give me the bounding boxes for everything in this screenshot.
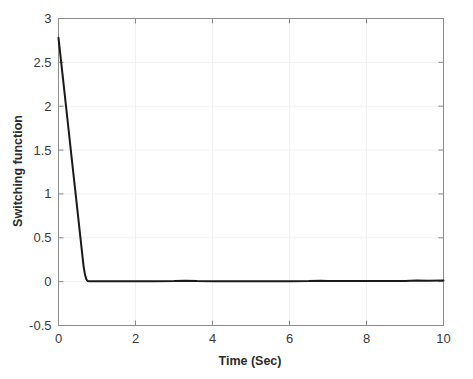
x-tick-label: 2 xyxy=(132,331,139,346)
x-tick-label: 8 xyxy=(363,331,370,346)
y-tick-label: 0.5 xyxy=(33,230,51,245)
figure-container: 0246810-0.500.511.522.53 Time (Sec) Swit… xyxy=(0,0,473,379)
axes-box xyxy=(59,19,444,326)
y-tick-label: 1.5 xyxy=(33,143,51,158)
y-tick-label: 2.5 xyxy=(33,55,51,70)
y-tick-label: 2 xyxy=(44,99,51,114)
chart-canvas: 0246810-0.500.511.522.53 Time (Sec) Swit… xyxy=(0,0,473,379)
y-tick-label: -0.5 xyxy=(29,318,51,333)
x-tick-label: 10 xyxy=(436,331,450,346)
x-tick-label: 4 xyxy=(209,331,216,346)
x-axis-title: Time (Sec) xyxy=(219,354,282,368)
grid-lines xyxy=(59,19,444,326)
y-tick-label: 3 xyxy=(44,11,51,26)
tick-labels: 0246810-0.500.511.522.53 xyxy=(29,11,451,346)
y-tick-label: 0 xyxy=(44,274,51,289)
data-series xyxy=(59,38,444,281)
series-line-switching-function xyxy=(59,38,444,281)
x-tick-label: 6 xyxy=(286,331,293,346)
y-tick-label: 1 xyxy=(44,186,51,201)
x-tick-label: 0 xyxy=(55,331,62,346)
axis-ticks xyxy=(59,19,444,326)
y-axis-title: Switching function xyxy=(11,115,25,227)
plot-frame xyxy=(59,19,444,326)
